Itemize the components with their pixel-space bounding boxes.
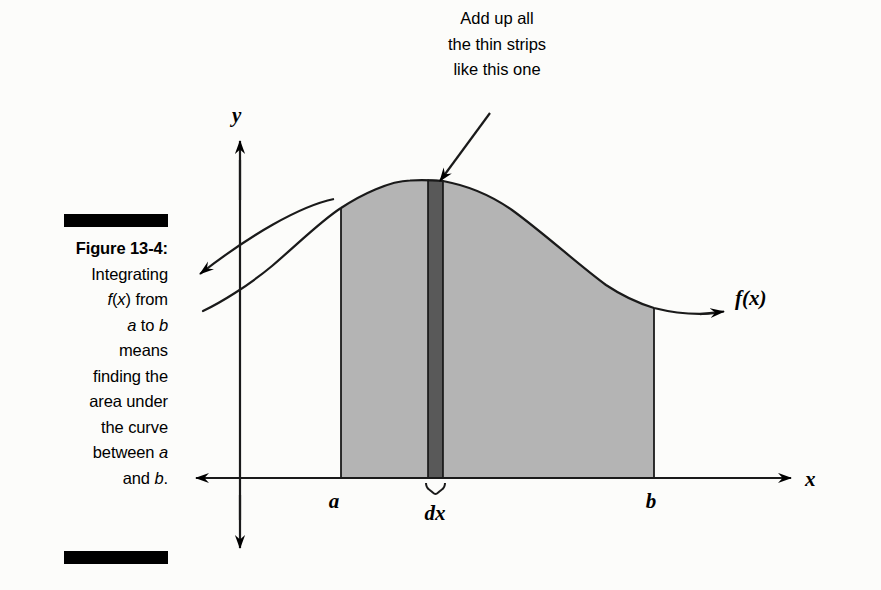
tick-label-b: b [646,489,657,513]
shaded-area-region [341,180,654,478]
curve-end-arrow [700,312,724,315]
tick-label-a: a [329,489,340,513]
dx-brace [426,483,445,494]
caption-leader-arrow [200,199,334,274]
annotation-leader-arrow [440,113,490,181]
integral-diagram: y x a b dx f(x) [0,0,881,590]
figure-container: Figure 13-4: Integrating f(x) from a to … [0,0,881,590]
y-axis-label: y [229,103,242,127]
x-axis-label: x [804,467,816,491]
dx-strip [428,179,443,478]
dx-label: dx [425,501,446,525]
function-label: f(x) [735,286,767,310]
